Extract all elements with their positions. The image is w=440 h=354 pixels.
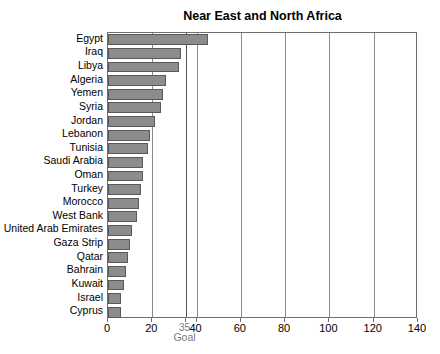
plot-area xyxy=(107,32,417,318)
y-axis-label-yemen: Yemen xyxy=(0,87,103,98)
x-tick-label-20: 20 xyxy=(145,322,157,334)
bar-row xyxy=(108,75,416,86)
x-tick-label-140: 140 xyxy=(408,322,426,334)
bar-row xyxy=(108,116,416,127)
y-axis-category-labels: EgyptIraqLibyaAlgeriaYemenSyriaJordanLeb… xyxy=(0,32,103,318)
x-tick-label-100: 100 xyxy=(319,322,337,334)
bar-row xyxy=(108,307,416,318)
bar xyxy=(108,198,139,209)
bar xyxy=(108,239,130,250)
bar xyxy=(108,48,181,59)
bar xyxy=(108,225,132,236)
x-tick-label-80: 80 xyxy=(278,322,290,334)
y-axis-label-saudi-arabia: Saudi Arabia xyxy=(0,155,103,166)
y-axis-label-bahrain: Bahrain xyxy=(0,264,103,275)
bar xyxy=(108,75,166,86)
bar xyxy=(108,116,155,127)
bar xyxy=(108,34,208,45)
y-axis-label-oman: Oman xyxy=(0,169,103,180)
bar-row xyxy=(108,198,416,209)
y-axis-label-algeria: Algeria xyxy=(0,74,103,85)
bar-row xyxy=(108,280,416,291)
y-axis-label-lebanon: Lebanon xyxy=(0,128,103,139)
chart-title: Near East and North Africa xyxy=(107,9,418,23)
y-axis-label-egypt: Egypt xyxy=(0,33,103,44)
bar xyxy=(108,102,161,113)
x-tick-label-120: 120 xyxy=(364,322,382,334)
x-tick-label-60: 60 xyxy=(234,322,246,334)
bar-row xyxy=(108,62,416,73)
y-axis-label-libya: Libya xyxy=(0,60,103,71)
bar xyxy=(108,89,163,100)
bar xyxy=(108,62,179,73)
bar xyxy=(108,143,148,154)
y-axis-label-qatar: Qatar xyxy=(0,251,103,262)
y-axis-label-iraq: Iraq xyxy=(0,46,103,57)
bar xyxy=(108,252,128,263)
bar-row xyxy=(108,171,416,182)
x-axis-label: Goal xyxy=(173,331,195,343)
bars-layer xyxy=(108,33,416,317)
y-axis-label-kuwait: Kuwait xyxy=(0,278,103,289)
y-axis-label-syria: Syria xyxy=(0,101,103,112)
y-axis-label-turkey: Turkey xyxy=(0,183,103,194)
y-axis-label-cyprus: Cyprus xyxy=(0,305,103,316)
bar xyxy=(108,211,137,222)
bar-row xyxy=(108,252,416,263)
bar-row xyxy=(108,130,416,141)
bar-row xyxy=(108,184,416,195)
y-axis-label-west-bank: West Bank xyxy=(0,210,103,221)
bar-row xyxy=(108,157,416,168)
y-axis-label-israel: Israel xyxy=(0,292,103,303)
bar xyxy=(108,293,121,304)
bar-row xyxy=(108,239,416,250)
x-tick-label-0: 0 xyxy=(104,322,110,334)
bar-row xyxy=(108,102,416,113)
bar-row xyxy=(108,225,416,236)
y-axis-label-gaza-strip: Gaza Strip xyxy=(0,237,103,248)
bar xyxy=(108,157,143,168)
bar-row xyxy=(108,211,416,222)
bar xyxy=(108,184,141,195)
bar-row xyxy=(108,143,416,154)
bar-row xyxy=(108,266,416,277)
bar-row xyxy=(108,89,416,100)
bar xyxy=(108,280,124,291)
y-axis-label-morocco: Morocco xyxy=(0,196,103,207)
bar-chart: Near East and North Africa EgyptIraqLiby… xyxy=(0,0,440,354)
x-axis-ticks: 02035406080100120140 xyxy=(0,318,440,338)
bar xyxy=(108,307,121,318)
bar-row xyxy=(108,293,416,304)
y-axis-label-jordan: Jordan xyxy=(0,115,103,126)
bar xyxy=(108,266,126,277)
y-axis-label-tunisia: Tunisia xyxy=(0,142,103,153)
bar-row xyxy=(108,48,416,59)
bar-row xyxy=(108,34,416,45)
y-axis-label-united-arab-emirates: United Arab Emirates xyxy=(0,223,103,234)
bar xyxy=(108,171,143,182)
bar xyxy=(108,130,150,141)
